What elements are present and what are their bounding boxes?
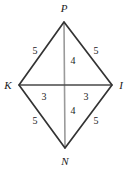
side-length-PI: 5	[94, 46, 99, 56]
diagonal-half-length-P-center: 4	[71, 56, 76, 66]
diagonal-half-length-K-center: 3	[42, 92, 47, 102]
side-length-KN: 5	[33, 116, 38, 126]
side-length-PK: 5	[33, 46, 38, 56]
vertex-label-K: K	[4, 80, 11, 91]
side-length-NI: 5	[94, 116, 99, 126]
vertex-label-I: I	[119, 80, 123, 91]
vertex-label-N: N	[61, 156, 68, 167]
diagonal-half-length-center-I: 3	[84, 92, 89, 102]
rhombus-diagram-svg	[0, 0, 128, 171]
diagonal-half-length-center-N: 4	[71, 106, 76, 116]
vertex-label-P: P	[61, 3, 68, 14]
geometry-figure: P K I N 5 5 5 5 4 4 3 3	[0, 0, 128, 171]
